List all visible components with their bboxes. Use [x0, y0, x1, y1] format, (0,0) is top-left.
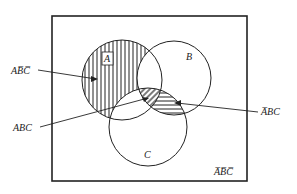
label-region-a-only: AB̅C̅: [10, 65, 31, 76]
label-set-b: B: [186, 51, 192, 62]
label-set-a: A: [103, 53, 111, 64]
label-region-abc: ABC: [12, 122, 32, 133]
label-region-complement: A̅B̅C̅: [213, 166, 234, 177]
label-region-nota-bc: A̅BC: [260, 106, 280, 117]
venn-diagram: A B C AB̅C̅ ABC A̅BC A̅B̅C̅: [0, 0, 297, 194]
label-set-c: C: [144, 149, 151, 160]
